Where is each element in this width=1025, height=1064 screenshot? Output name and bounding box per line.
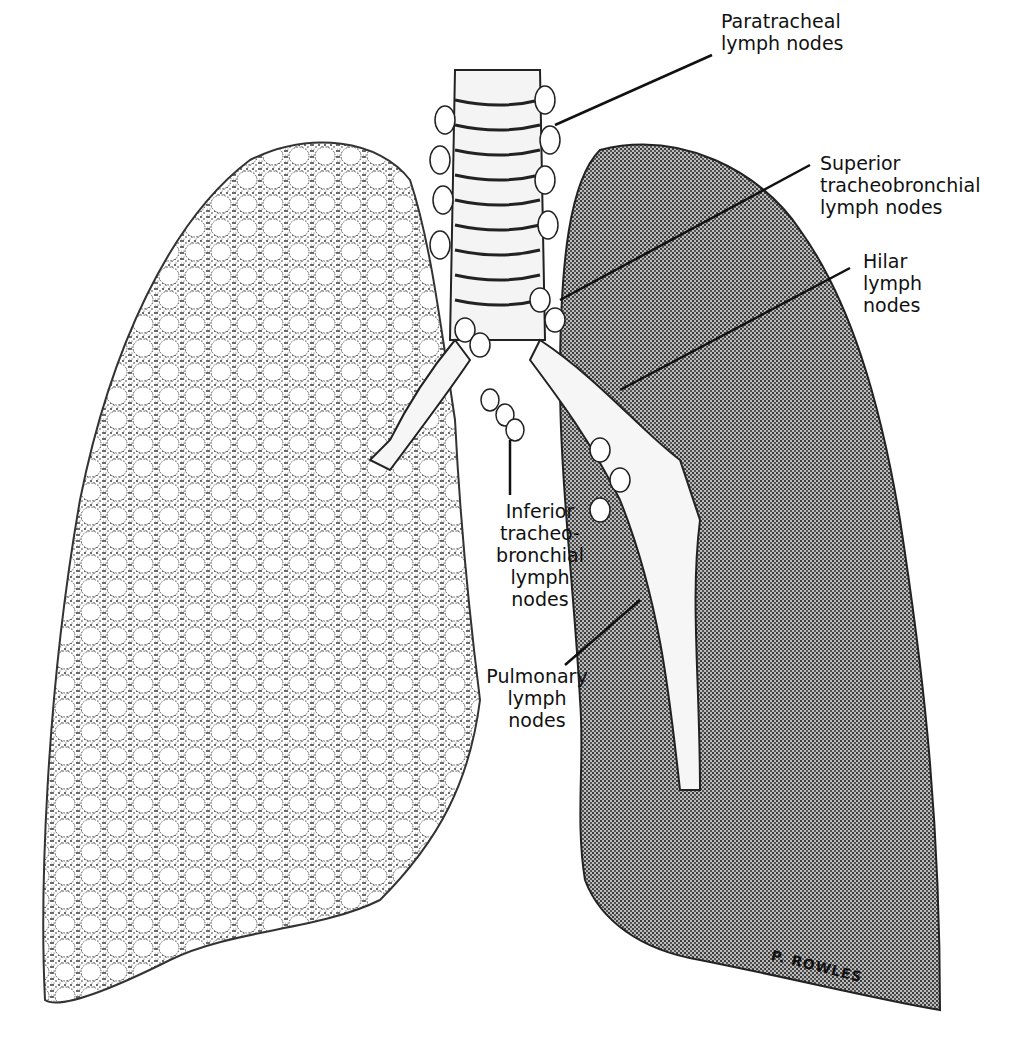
label-line: tracheobronchial <box>820 174 981 196</box>
label-line: Superior <box>820 152 981 174</box>
label-line: Pulmonary <box>462 665 612 687</box>
label-paratracheal: Paratracheal lymph nodes <box>721 10 844 54</box>
label-line: lymph nodes <box>721 32 844 54</box>
label-line: lymph <box>470 566 610 588</box>
label-line: lymph nodes <box>820 196 981 218</box>
label-hilar: Hilar lymph nodes <box>863 250 922 316</box>
label-line: lymph <box>462 687 612 709</box>
label-line: lymph <box>863 272 922 294</box>
label-pulmonary: Pulmonary lymph nodes <box>462 665 612 731</box>
label-line: nodes <box>462 709 612 731</box>
label-line: bronchial <box>470 544 610 566</box>
label-line: nodes <box>863 294 922 316</box>
label-inferior-tracheobronchial: Inferior tracheo- bronchial lymph nodes <box>470 500 610 610</box>
right-lung <box>43 143 480 1003</box>
label-line: tracheo- <box>470 522 610 544</box>
label-line: Hilar <box>863 250 922 272</box>
label-superior-tracheobronchial: Superior tracheobronchial lymph nodes <box>820 152 981 218</box>
label-line: Paratracheal <box>721 10 844 32</box>
label-line: nodes <box>470 588 610 610</box>
label-line: Inferior <box>470 500 610 522</box>
